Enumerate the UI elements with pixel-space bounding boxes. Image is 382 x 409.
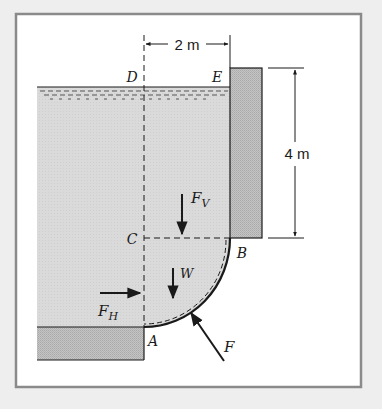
force-label-FV-subscript: V <box>201 197 210 210</box>
dimension-2m-label: 2 m <box>174 36 199 53</box>
force-label-FH-subscript: H <box>107 310 118 323</box>
force-label-W: W <box>180 266 195 281</box>
force-label-F: F <box>223 338 235 356</box>
point-label-E: E <box>211 69 222 85</box>
point-label-B: B <box>236 245 247 261</box>
point-label-A: A <box>146 333 158 349</box>
dimension-4m-label: 4 m <box>284 145 309 162</box>
point-label-D: D <box>125 69 137 85</box>
fluid-statics-diagram: 2 m 4 m D E C B A FV W FH F <box>0 0 382 409</box>
point-label-C: C <box>127 231 138 247</box>
force-label-FH-symbol: F <box>97 302 109 320</box>
right-wall-block <box>230 68 262 238</box>
floor-block <box>37 327 144 360</box>
force-label-FV-symbol: F <box>190 189 202 207</box>
